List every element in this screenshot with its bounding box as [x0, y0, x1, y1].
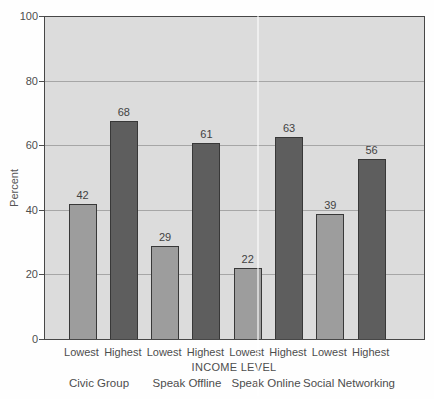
x-category-label: Lowest: [229, 346, 264, 358]
bar-value-label: 42: [76, 189, 88, 201]
y-tick-mark-40: [39, 210, 44, 211]
x-axis-title: INCOME LEVEL: [192, 361, 277, 373]
x-category-label: Highest: [104, 346, 141, 358]
bar-civic-group-lowest: [69, 204, 97, 339]
x-category-label: Highest: [187, 346, 224, 358]
bar-speak-online-lowest: [234, 268, 262, 339]
y-tick-mark-20: [39, 274, 44, 275]
x-category-label: Lowest: [64, 346, 99, 358]
bar-speak-offline-lowest: [151, 246, 179, 339]
plot-area: 4268296122633956: [44, 16, 425, 340]
y-tick-label-20: 20: [8, 268, 38, 280]
bar-value-label: 39: [324, 199, 336, 211]
y-tick-label-100: 100: [8, 10, 38, 22]
x-category-label: Highest: [269, 346, 306, 358]
y-tick-label-60: 60: [8, 139, 38, 151]
group-label-civic-group: Civic Group: [69, 377, 129, 389]
bar-value-label: 22: [242, 253, 254, 265]
y-tick-mark-100: [39, 16, 44, 17]
y-tick-label-0: 0: [8, 333, 38, 345]
gridline-80: [45, 81, 424, 82]
y-tick-label-40: 40: [8, 204, 38, 216]
group-label-speak-online: Speak Online: [231, 377, 300, 389]
x-category-label: Lowest: [312, 346, 347, 358]
bar-speak-offline-highest: [192, 143, 220, 339]
x-category-label: Highest: [352, 346, 389, 358]
y-tick-label-80: 80: [8, 75, 38, 87]
bar-speak-online-highest: [275, 137, 303, 339]
bar-social-networking-highest: [358, 159, 386, 339]
bar-value-label: 29: [159, 231, 171, 243]
bar-civic-group-highest: [110, 121, 138, 339]
bar-value-label: 68: [118, 106, 130, 118]
y-axis-title: Percent: [8, 169, 20, 207]
bar-chart-figure: Percent 4268296122633956 020406080100 Lo…: [0, 0, 434, 399]
bar-value-label: 63: [283, 122, 295, 134]
bar-social-networking-lowest: [316, 214, 344, 339]
bar-value-label: 61: [200, 128, 212, 140]
x-category-label: Lowest: [147, 346, 182, 358]
y-tick-mark-0: [39, 339, 44, 340]
group-label-speak-offline: Speak Offline: [153, 377, 222, 389]
y-tick-mark-80: [39, 81, 44, 82]
bar-value-label: 56: [365, 144, 377, 156]
y-tick-mark-60: [39, 145, 44, 146]
group-label-social-networking: Social Networking: [303, 377, 395, 389]
